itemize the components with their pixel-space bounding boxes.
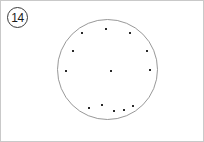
dot-right-middle <box>149 69 151 71</box>
dot-bottom-4 <box>123 109 125 111</box>
dot-bottom-2 <box>101 104 103 106</box>
dot-group <box>65 28 151 112</box>
dot-upper-right <box>129 32 131 34</box>
dot-upper-left <box>81 32 83 34</box>
dot-center <box>110 70 112 72</box>
dot-left-upper <box>72 50 74 52</box>
dot-pattern-figure <box>1 1 204 142</box>
dot-bottom-1 <box>88 107 90 109</box>
figure-panel: 14 <box>0 0 204 142</box>
dot-top-center <box>105 28 107 30</box>
dot-bottom-3 <box>113 110 115 112</box>
dot-right-upper <box>146 50 148 52</box>
circle-outline <box>58 20 158 120</box>
dot-bottom-5 <box>132 105 134 107</box>
dot-left-middle <box>65 70 67 72</box>
